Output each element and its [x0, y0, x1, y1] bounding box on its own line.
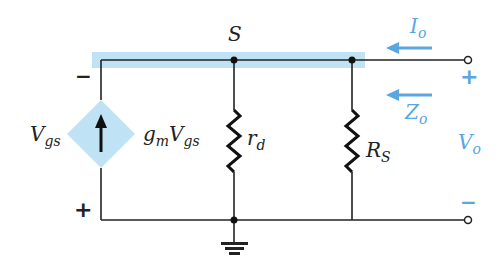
node-dot-s — [231, 57, 238, 64]
node-label-s: S — [228, 22, 242, 46]
resistor-rd-icon — [228, 110, 240, 172]
rd-label: rd — [247, 126, 266, 153]
rs-label: RS — [366, 138, 391, 165]
vo-label: Vo — [458, 130, 481, 157]
zo-label: Zo — [405, 100, 427, 127]
output-terminal-bottom — [465, 217, 472, 224]
vgs-plus-sign: + — [74, 197, 92, 222]
output-terminal-top — [465, 57, 472, 64]
vgs-minus-sign: − — [75, 64, 92, 88]
vgs-label: Vgs — [30, 122, 61, 149]
resistor-rs-icon — [346, 110, 358, 172]
gm-vgs-label: gmVgs — [143, 122, 200, 149]
vo-plus-sign: + — [460, 64, 478, 89]
vo-minus-sign: − — [460, 190, 477, 214]
node-dot-ground — [231, 217, 238, 224]
node-dot-rs-top — [349, 57, 356, 64]
io-label: Io — [410, 14, 426, 41]
io-arrow-left-icon — [386, 42, 432, 54]
ground-icon — [221, 242, 248, 255]
